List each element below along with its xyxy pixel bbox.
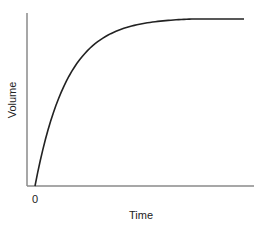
volume-curve (35, 19, 244, 186)
y-axis-label: Volume (6, 82, 18, 119)
chart: 0 Time Volume (0, 0, 270, 225)
x-axis-label: Time (129, 209, 153, 221)
x-tick-zero: 0 (32, 193, 38, 205)
